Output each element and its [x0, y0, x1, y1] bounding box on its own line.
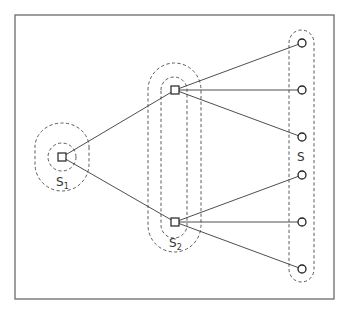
- node-leaf-6-circle: [298, 265, 306, 273]
- node-leaf-5-circle: [298, 218, 306, 226]
- node-midtop-square: [171, 86, 179, 94]
- label-s: S: [297, 150, 305, 164]
- label-s1-subscript: 1: [64, 182, 69, 191]
- label-s2-main: S: [169, 236, 177, 250]
- node-root-square: [58, 153, 66, 161]
- node-leaf-2-circle: [298, 86, 306, 94]
- node-midbottom-square: [171, 218, 179, 226]
- node-leaf-4-circle: [298, 171, 306, 179]
- diagram-svg: S1 S2 S: [0, 0, 348, 310]
- node-leaf-3-circle: [298, 133, 306, 141]
- label-s1-main: S: [56, 175, 64, 189]
- label-s-main: S: [297, 150, 305, 164]
- label-s2-subscript: 2: [177, 243, 182, 252]
- diagram-canvas: S1 S2 S: [0, 0, 348, 310]
- node-leaf-1-circle: [298, 39, 306, 47]
